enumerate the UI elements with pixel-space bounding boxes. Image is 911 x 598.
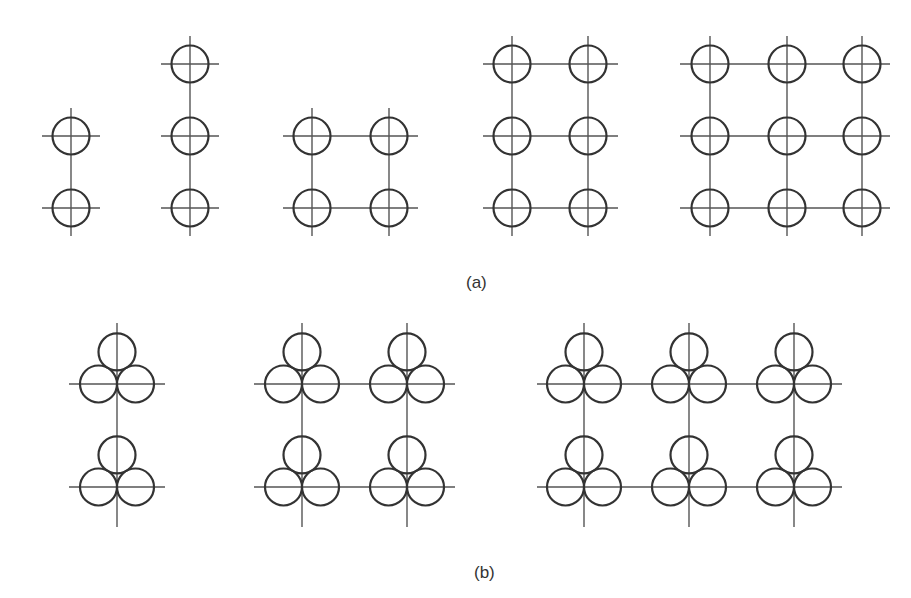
grid-group-2x3 [483, 36, 618, 236]
panel-b-label: (b) [474, 563, 495, 583]
panel-a-grid-arrangements [42, 36, 890, 236]
grid-group-1x3 [161, 36, 219, 236]
grid-group-1x2 [42, 108, 100, 236]
grid-group-2x2 [283, 108, 418, 236]
trefoil-group-1x2 [69, 323, 165, 527]
trefoil-group-2x2 [254, 323, 455, 527]
panel-b-trefoil-arrangements [69, 323, 842, 527]
trefoil-group-3x2 [537, 323, 842, 527]
grid-group-3x3 [680, 36, 890, 236]
panel-a-label: (a) [466, 273, 487, 293]
conductor-arrangement-diagram [0, 0, 911, 598]
